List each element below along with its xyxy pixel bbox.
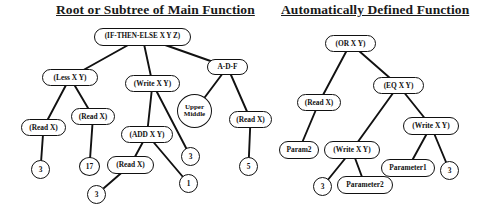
tree-node-a-write1: (Write X Y) (324, 141, 380, 159)
tree-node-a-write2: (Write X Y) (403, 117, 459, 135)
tree-node-m-one: 1 (179, 174, 198, 193)
tree-node-m-read1: (Read X) (21, 119, 66, 136)
tree-node-a-three2: 3 (440, 161, 459, 180)
tree-node-a-param2: Param2 (279, 141, 319, 159)
tree-node-m-read3: (Read X) (229, 111, 272, 128)
tree-node-m-write: (Write X Y) (125, 75, 180, 92)
tree-node-m-less: (Less X Y) (42, 69, 98, 86)
tree-node-m-three3: 3 (87, 185, 106, 204)
tree-node-m-three1: 3 (31, 160, 50, 179)
tree-node-m-root: (IF-THEN-ELSE X Y Z) (94, 28, 191, 46)
title-main-function: Root or Subtree of Main Function (56, 2, 254, 18)
tree-node-m-17: 17 (79, 157, 100, 176)
tree-diagram-figure: Root or Subtree of Main Function Automat… (0, 0, 477, 206)
tree-node-m-read2: (Read X) (71, 108, 115, 125)
tree-node-a-or: (OR X Y) (325, 35, 376, 52)
tree-node-m-three2: 3 (181, 147, 200, 166)
tree-node-a-par1: Parameter1 (381, 159, 435, 177)
tree-node-m-read4: (Read X) (107, 156, 154, 174)
tree-node-a-par2: Parameter2 (337, 176, 393, 194)
tree-node-a-three1: 3 (313, 177, 332, 196)
tree-node-m-five: 5 (239, 157, 258, 176)
title-adf: Automatically Defined Function (281, 2, 457, 18)
tree-node-m-upmid: Upper Middle (177, 94, 212, 128)
tree-node-m-add: (ADD X Y) (121, 126, 173, 143)
tree-node-a-read: (Read X) (297, 94, 341, 111)
tree-node-a-eq: (EQ X Y) (373, 77, 424, 94)
tree-node-m-adf: A-D-F (207, 59, 248, 75)
